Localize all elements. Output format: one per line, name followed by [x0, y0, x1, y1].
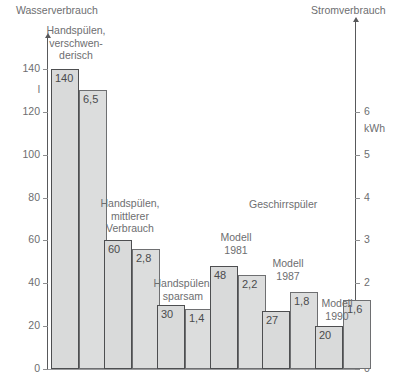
group-label: Modell 1987 — [244, 257, 332, 282]
group-label: Modell 1990 — [297, 297, 377, 322]
bar-value-water: 60 — [108, 243, 120, 255]
bar-water — [51, 69, 79, 369]
right-tick-label: 2 — [364, 276, 394, 288]
left-tick — [43, 283, 48, 284]
left-tick — [43, 69, 48, 70]
right-tick-label: 5 — [364, 148, 394, 160]
left-tick — [43, 326, 48, 327]
bar-value-water: 140 — [55, 72, 73, 84]
bar-value-water: 30 — [161, 308, 173, 320]
left-tick-label: 40 — [6, 276, 40, 288]
bar-value-water: 48 — [214, 269, 226, 281]
annotation-geschirrspueler: Geschirrspüler — [249, 198, 317, 210]
bar-value-power: 2,8 — [136, 252, 151, 264]
bar-water — [210, 266, 238, 369]
right-tick-label: 3 — [364, 233, 394, 245]
left-tick — [43, 369, 48, 370]
header-wasserverbrauch: Wasserverbrauch — [16, 4, 98, 16]
left-tick — [43, 240, 48, 241]
group-label: Modell 1981 — [192, 231, 280, 256]
right-axis-unit: kWh — [364, 122, 385, 134]
right-tick — [355, 369, 360, 370]
bar-value-water: 27 — [266, 314, 278, 326]
left-tick — [43, 155, 48, 156]
right-tick — [355, 198, 360, 199]
baseline — [47, 369, 355, 370]
right-tick — [355, 240, 360, 241]
right-tick — [355, 283, 360, 284]
left-tick-label: 120 — [6, 105, 40, 117]
right-tick — [355, 155, 360, 156]
right-tick-label: 4 — [364, 191, 394, 203]
left-tick — [43, 198, 48, 199]
right-axis-arrow — [353, 17, 359, 22]
left-axis-unit: l — [6, 83, 40, 95]
left-tick-label: 100 — [6, 148, 40, 160]
bar-water — [104, 240, 132, 369]
left-tick-label: 140 — [6, 62, 40, 74]
header-stromverbrauch: Stromverbrauch — [311, 4, 386, 16]
right-tick-label: 6 — [364, 105, 394, 117]
group-label: Handspülen, verschwen- derisch — [32, 24, 120, 62]
left-tick-label: 0 — [6, 362, 40, 374]
right-tick — [355, 112, 360, 113]
bar-value-power: 6,5 — [83, 93, 98, 105]
group-label: Handspülen, mittlerer Verbrauch — [86, 197, 174, 235]
left-tick-label: 20 — [6, 319, 40, 331]
chart-canvas: WasserverbrauchStromverbrauch14012010080… — [0, 0, 395, 390]
left-axis — [47, 38, 48, 370]
left-tick — [43, 112, 48, 113]
bar-value-water: 20 — [319, 329, 331, 341]
left-tick-label: 60 — [6, 233, 40, 245]
bar-value-power: 1,4 — [189, 312, 204, 324]
left-tick-label: 80 — [6, 191, 40, 203]
bar-power — [132, 249, 160, 369]
